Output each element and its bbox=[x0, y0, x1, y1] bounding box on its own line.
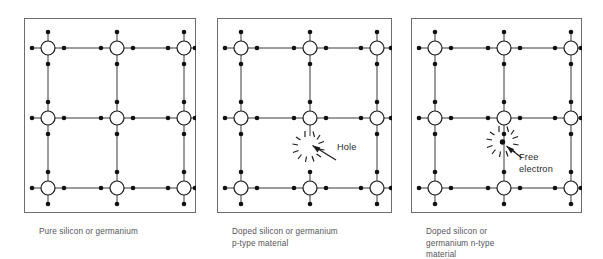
hole-starburst-icon bbox=[293, 131, 325, 162]
hole-label: Hole bbox=[337, 142, 357, 154]
free-electron-dot bbox=[500, 139, 505, 144]
caption-n-type: Doped silicon or germanium n-type materi… bbox=[426, 226, 586, 259]
caption-p-type: Doped silicon or germanium p-type materi… bbox=[232, 226, 407, 249]
lattice-diagram-pure bbox=[24, 18, 196, 213]
hole-pointer-arrow bbox=[313, 146, 337, 161]
free-electron-label: Free electron bbox=[519, 152, 553, 175]
semiconductor-lattice-figure: Pure silicon or germanium Doped silicon … bbox=[0, 0, 603, 259]
lattice-diagram-n-type bbox=[411, 18, 582, 213]
caption-pure-silicon: Pure silicon or germanium bbox=[39, 226, 199, 238]
panel-p-type bbox=[217, 18, 392, 213]
panel-pure-silicon bbox=[24, 18, 196, 213]
lattice-diagram-p-type bbox=[217, 18, 392, 213]
panel-n-type bbox=[411, 18, 582, 213]
